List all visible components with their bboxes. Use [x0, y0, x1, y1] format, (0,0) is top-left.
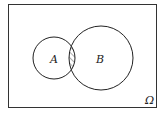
- universe-label: Ω: [144, 94, 154, 107]
- venn-diagram: A B Ω: [0, 0, 162, 116]
- set-a-label: A: [49, 53, 58, 66]
- universe-frame: [9, 5, 157, 108]
- set-b-label: B: [95, 53, 104, 66]
